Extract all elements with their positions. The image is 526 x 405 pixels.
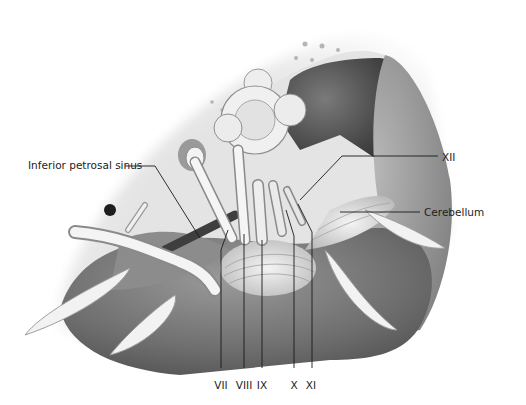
label-x: X xyxy=(290,380,297,391)
label-xii: XII xyxy=(442,152,455,163)
anatomical-illustration xyxy=(0,0,526,405)
label-viii: VIII xyxy=(236,380,252,391)
bone-foramen xyxy=(104,204,116,216)
label-inferior-petrosal-sinus: Inferior petrosal sinus xyxy=(28,160,142,171)
label-cerebellum: Cerebellum xyxy=(424,207,484,218)
label-ix: IX xyxy=(257,380,267,391)
label-xi: XI xyxy=(306,380,316,391)
label-vii: VII xyxy=(214,380,227,391)
